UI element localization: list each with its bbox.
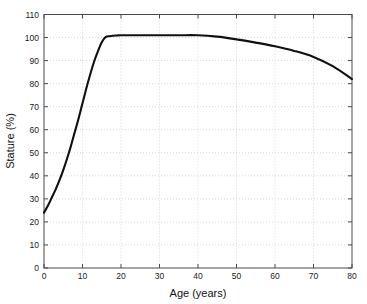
chart-figure: 01020304050607080 0102030405060708090100… [0, 0, 367, 304]
y-tick-label: 70 [30, 102, 40, 112]
x-tick-label: 70 [309, 271, 319, 281]
stature-vs-age-line-chart: 01020304050607080 0102030405060708090100… [0, 0, 367, 304]
y-tick-label: 20 [30, 217, 40, 227]
y-tick-label: 30 [30, 194, 40, 204]
x-tick-label: 80 [347, 271, 357, 281]
x-tick-label: 50 [232, 271, 242, 281]
y-tick-label: 40 [30, 171, 40, 181]
y-tick-label: 100 [25, 33, 39, 43]
y-tick-label: 110 [25, 10, 39, 20]
x-tick-label: 40 [193, 271, 203, 281]
y-tick-label: 80 [30, 79, 40, 89]
y-tick-label: 0 [34, 263, 39, 273]
y-axis-title: Stature (%) [4, 113, 16, 169]
y-tick-label: 50 [30, 148, 40, 158]
x-tick-label: 10 [78, 271, 88, 281]
y-tick-label: 10 [30, 240, 40, 250]
x-tick-label: 30 [155, 271, 165, 281]
x-axis-title: Age (years) [170, 287, 227, 299]
x-tick-label: 20 [116, 271, 126, 281]
y-tick-label: 90 [30, 56, 40, 66]
y-tick-label: 60 [30, 125, 40, 135]
x-tick-label: 60 [270, 271, 280, 281]
x-tick-label: 0 [42, 271, 47, 281]
plot-background [0, 0, 367, 304]
